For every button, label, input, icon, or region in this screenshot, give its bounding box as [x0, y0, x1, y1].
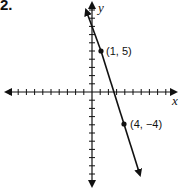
- point-4-neg4: [121, 121, 126, 126]
- graph-line-lower: [101, 51, 140, 175]
- point-4-neg4-label: (4, −4): [130, 118, 162, 130]
- graph-line: [86, 10, 101, 51]
- y-axis-label: y: [96, 0, 104, 15]
- x-axis-label: x: [171, 93, 178, 108]
- coordinate-plane: (1, 5) (4, −4) y x: [0, 0, 180, 190]
- point-1-5: [98, 48, 103, 53]
- point-1-5-label: (1, 5): [106, 45, 132, 57]
